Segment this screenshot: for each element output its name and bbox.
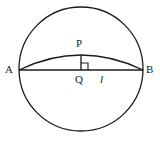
length-label-l: l	[100, 74, 103, 85]
right-angle-marker-icon	[81, 63, 88, 70]
geometry-diagram-svg	[0, 0, 160, 142]
point-label-q: Q	[75, 74, 83, 85]
point-label-b: B	[146, 64, 153, 75]
point-label-a: A	[5, 64, 13, 75]
point-label-p: P	[76, 38, 82, 49]
geometry-figure: A B P Q l	[0, 0, 160, 142]
